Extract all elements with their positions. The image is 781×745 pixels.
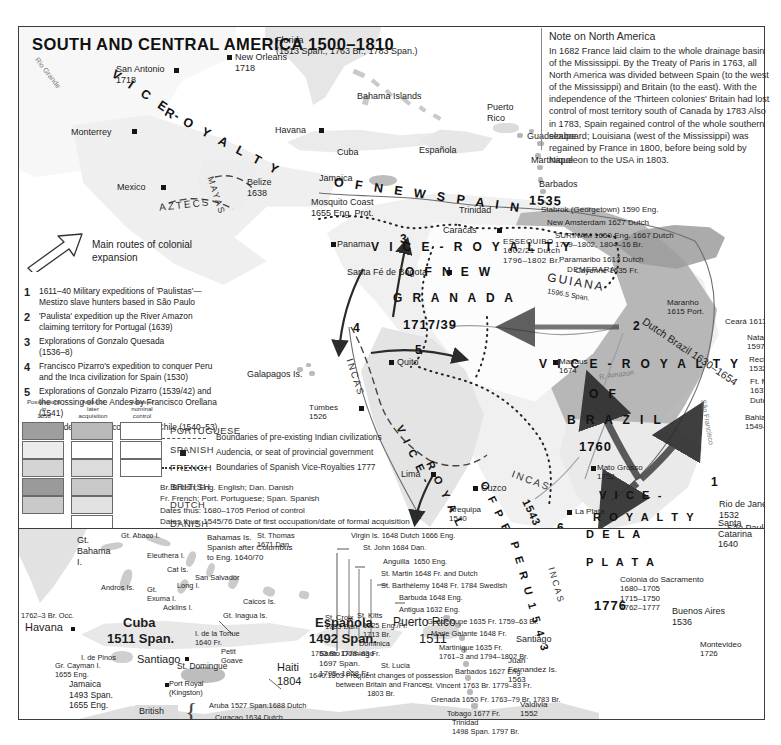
inset-label-andros-is: Andros Is. <box>101 583 134 592</box>
route-list-item: 1 1611–40 Military expeditions of 'Pauli… <box>24 286 234 308</box>
viceroyalty-brazil-year: 1760 <box>579 439 612 454</box>
label-ft-maurits: Ft. Maurits 1637 Dutch <box>750 377 765 405</box>
inset-label-antigua: Antigua 1632 Eng. <box>399 605 460 614</box>
route-text: 'Paulista' expedition up the River Amazo… <box>39 311 193 332</box>
key-column-header: Areas of nominal control <box>120 398 164 420</box>
inset-label-virgin-is: Virgin Is. 1648 Dutch 1666 Eng. <box>351 531 455 540</box>
route-number-1: 1 <box>711 475 718 489</box>
inset-label-cuba: Cuba <box>123 615 156 631</box>
key-swatch-later <box>71 496 113 514</box>
square-marker-icon <box>180 450 186 456</box>
inset-label-trinidad-overflow: Trinidad 1498 Span. 1797 Br. <box>452 718 519 736</box>
dot-havana <box>319 128 324 133</box>
inset-label-gt-exuma: Gt. Exuma I. <box>147 585 176 603</box>
route-number-4: 4 <box>353 321 360 335</box>
inset-label-marie-galante: Marie Galante 1648 Fr. <box>431 629 507 638</box>
inset-label-san-salvador: San Salvador <box>195 573 239 582</box>
key-column-header: Areas of later acquisition <box>71 398 115 420</box>
inset-label-la-tortue: I. de la Tortue 1640 Fr. <box>195 629 240 647</box>
label-havana: Havana <box>275 125 306 136</box>
route-number: 3 <box>24 335 30 349</box>
viceroyalty-new-granada-year: 1717/39 <box>403 317 457 332</box>
route-text: Explorations of Gonzalo Quesada (1536–8) <box>39 336 164 357</box>
inset-label-havana: Havana <box>25 621 63 635</box>
viceroyalty-plata-l3: D E L A <box>586 528 643 540</box>
key-swatch-later <box>71 459 113 477</box>
inset-label-british-occ: British 1807–14 <box>135 705 178 720</box>
inset-label-jamaica: Jamaica 1493 Span. 1655 Eng. <box>69 679 113 711</box>
dot-tumbes <box>359 406 364 411</box>
viceroyalty-new-granada-l2: O F N E W <box>405 265 494 279</box>
inset-label-st-kitts: St. Kitts <box>357 611 382 620</box>
inset-label-st-kitts-date: 1625 Eng./Fr. 1713 Br. <box>363 621 407 639</box>
viceroyalty-brazil-l3: B R A Z I L <box>567 413 664 427</box>
line-key-text: Boundaries of Spanish Vice-Royalties 177… <box>216 462 375 472</box>
label-buenos-aires: Buenos Aires 1536 <box>672 606 725 627</box>
label-caracas: Caracas <box>443 225 477 236</box>
route-number: 4 <box>24 360 30 374</box>
route-list-item: 3 Explorations of Gonzalo Quesada (1536–… <box>24 336 234 358</box>
inset-label-cuba-date: 1511 Span. <box>107 631 174 647</box>
key-column-header: Possessions in 1650 <box>22 398 66 420</box>
inset-label-gt-bahama: Gt. Bahama I. <box>77 535 111 568</box>
north-america-note: Note on North America In 1682 France lai… <box>549 30 771 166</box>
label-cayenne: Cayenne 1635 Fr. <box>575 266 639 275</box>
inset-label-anguilla: Anguilla 1650 Eng. <box>383 557 447 566</box>
line-key-row-indian-boundaries: Boundaries of pre-existing Indian civili… <box>160 432 382 447</box>
historical-map-page: New Orleans 1718 San Antonio 1718 Monter… <box>0 0 781 745</box>
key-swatch-later <box>71 422 113 440</box>
abbreviations-key: Br. British; Eng. English; Dan. Danish F… <box>160 482 410 528</box>
key-swatch-possessions <box>22 478 64 496</box>
route-number-2: 2 <box>633 319 640 333</box>
label-puerto-rico: Puerto Rico <box>487 102 514 123</box>
label-mosquito-coast: Mosquito Coast 1655 Eng. Prot. <box>311 197 374 218</box>
key-swatch-later <box>71 478 113 496</box>
label-cuba: Cuba <box>337 147 359 158</box>
route-list-item: 4 Francisco Pizarro's expedition to conq… <box>24 361 234 383</box>
dot-cuzco <box>473 486 478 491</box>
viceroyalty-plata-l2: R O Y A L T Y <box>593 511 696 523</box>
key-swatch-possessions <box>22 422 64 440</box>
dashed-line-icon <box>162 438 206 439</box>
page-title: SOUTH AND CENTRAL AMERICA 1500–1810 <box>32 34 394 55</box>
key-swatch-possessions <box>22 441 64 459</box>
label-bahia: Bahia 1549–1763 <box>745 413 765 432</box>
label-mexico: Mexico <box>117 182 146 193</box>
inset-label-santiago: Santiago <box>137 653 180 667</box>
label-tumbes: Túmbes 1526 <box>309 403 338 422</box>
inset-label-st-barthelemy: St. Barthélemy 1648 Fr. 1784 Swedish <box>381 581 507 590</box>
route-number-5: 5 <box>415 343 422 357</box>
route-number-3: 3 <box>400 232 407 246</box>
line-key-text: Audencia, or seat of provincial governme… <box>216 447 373 457</box>
line-key-text: Boundaries of pre-existing Indian civili… <box>216 432 382 442</box>
label-barbados: Barbados <box>539 179 578 190</box>
key-swatch-nominal <box>120 422 162 440</box>
dot-san-antonio <box>174 68 179 73</box>
inset-label-st-thomas: St. Thomas 1671 Dan. <box>257 531 295 549</box>
inset-label-cat-is: Cat Is. <box>167 565 188 574</box>
inset-label-port-royal: Port Royal (Kingston) <box>169 679 204 697</box>
key-swatch-later <box>71 441 113 459</box>
viceroyalty-plata-year: 1776 <box>594 598 627 613</box>
label-sao-francisco: São Francisco <box>699 399 715 446</box>
dot-mexico <box>161 185 166 190</box>
inset-label-caicos-is: Caicos Is. <box>243 597 275 606</box>
dot-caracas <box>497 228 502 233</box>
north-america-note-body: In 1682 France laid claim to the whole d… <box>549 45 771 166</box>
inset-label-havana-occupation: 1762–3 Br. Occ. <box>21 611 74 620</box>
inset-label-gt-inagua: Gt. Inagua Is. <box>223 611 267 620</box>
label-panama: Panama <box>337 239 371 250</box>
label-new-amsterdam: New Amsterdam 1627 Dutch <box>547 218 649 227</box>
label-recife: Recife 1532 Port. <box>749 355 765 374</box>
key-swatch-possessions <box>22 496 64 514</box>
route-text: Francisco Pizarro's expedition to conque… <box>39 361 212 382</box>
viceroyalty-new-spain-year: 1535 <box>529 192 562 208</box>
inset-label-long-is: Long I. <box>177 581 200 590</box>
viceroyalty-brazil-l1: V I C E - R O Y A L T Y <box>539 357 741 371</box>
inset-label-st-lucia: St. Lucia <box>381 661 410 670</box>
inset-label-dominica-date: 1763 Br. 1778–83 Fr. <box>311 649 380 658</box>
inset-label-st-john: St. John 1684 Dan. <box>363 543 426 552</box>
dot-panama <box>331 242 336 247</box>
dot-new-orleans <box>227 55 232 60</box>
north-america-note-heading: Note on North America <box>549 30 771 44</box>
